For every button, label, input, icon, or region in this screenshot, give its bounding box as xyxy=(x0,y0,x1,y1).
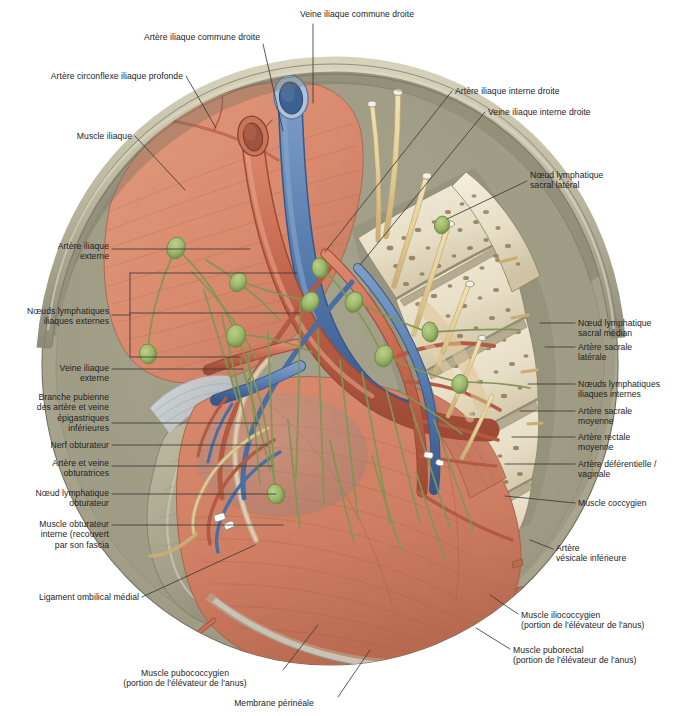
label-ligament-ombilical-medial: Ligament ombilical médial xyxy=(6,592,139,602)
label-artere-iliaque-commune-droite: Artère iliaque commune droite xyxy=(8,32,260,42)
label-membrane-perineale: Membrane périnéale xyxy=(213,698,335,708)
label-nerf-obturateur: Nerf obturateur xyxy=(6,440,109,450)
label-artere-sacrale-laterale: Artère sacrale latérale xyxy=(578,342,673,363)
label-artere-iliaque-interne-droite: Artère iliaque interne droite xyxy=(455,86,635,96)
label-noeuds-lymphatiques-iliaques-internes: Nœuds lymphatiques iliaques internes xyxy=(578,379,673,400)
label-muscle-iliococcygien: Muscle iliococcygien (portion de l'éléva… xyxy=(521,610,673,631)
label-artere-circonflexe-iliaque-profonde: Artère circonflexe iliaque profonde xyxy=(6,71,183,81)
label-artere-sacrale-moyenne: Artère sacrale moyenne xyxy=(578,406,673,427)
label-muscle-iliaque: Muscle iliaque xyxy=(6,131,132,141)
label-artere-deferentielle-vaginale: Artère déférentielle / vaginale xyxy=(578,459,673,480)
label-veine-iliaque-commune-droite: Veine iliaque commune droite xyxy=(277,9,437,19)
label-noeuds-lymphatiques-iliaques-externes: Nœuds lymphatiques iliaques externes xyxy=(2,306,109,327)
label-muscle-puborectal: Muscle puborectal (portion de l'élévateu… xyxy=(513,645,673,666)
label-muscle-obturateur-interne: Muscle obturateur interne (recouvert par… xyxy=(6,519,109,550)
label-veine-iliaque-interne-droite: Veine iliaque interne droite xyxy=(488,107,668,117)
label-noeud-lymphatique-sacral-lateral: Nœud lymphatique sacral latéral xyxy=(530,170,670,191)
label-artere-rectale-moyenne: Artère rectale moyenne xyxy=(578,432,673,453)
leader-muscle-puborectal xyxy=(476,628,510,649)
illustration-canvas: Veine iliaque commune droiteArtère iliaq… xyxy=(0,0,673,716)
label-artere-iliaque-externe: Artère iliaque externe xyxy=(6,241,109,262)
label-artere-vesicale-inferieure: Artère vésicale inférieure xyxy=(556,543,673,564)
label-noeud-lymphatique-sacral-median: Nœud lymphatique sacral médian xyxy=(578,318,673,339)
label-artere-et-veine-obturatrices: Artère et veine obturatrices xyxy=(6,458,109,479)
label-muscle-pubococcygien: Muscle pubococcygien (portion de l'éléva… xyxy=(90,668,280,689)
label-muscle-coccygien: Muscle coccygien xyxy=(578,498,673,508)
label-noeud-lymphatique-obturateur: Nœud lymphatique obturateur xyxy=(6,488,109,509)
label-veine-iliaque-externe: Veine iliaque externe xyxy=(6,363,109,384)
label-branche-pubienne: Branche pubienne des artère et veine épi… xyxy=(6,392,109,434)
